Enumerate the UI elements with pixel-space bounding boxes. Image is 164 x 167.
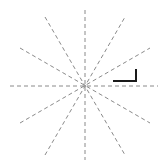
figure-canvas xyxy=(0,0,164,167)
star-diagram-svg xyxy=(0,0,164,167)
